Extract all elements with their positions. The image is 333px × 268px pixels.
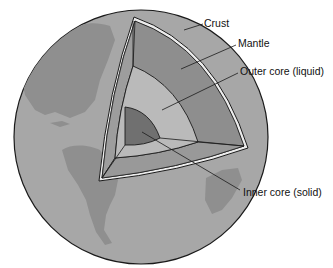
label-mantle: Mantle (238, 38, 270, 49)
globe-illustration (0, 0, 333, 268)
label-crust: Crust (204, 18, 229, 29)
label-outer-core: Outer core (liquid) (240, 66, 324, 77)
earth-layers-diagram: Crust Mantle Outer core (liquid) Inner c… (0, 0, 333, 268)
label-inner-core: Inner core (solid) (243, 187, 322, 198)
